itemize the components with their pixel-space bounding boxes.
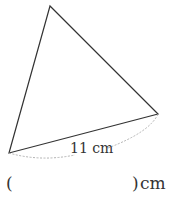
answer-blank[interactable]: ( ) cm — [6, 172, 171, 194]
unit-label: cm — [140, 172, 166, 194]
close-paren: ) — [132, 172, 139, 194]
open-paren: ( — [6, 172, 13, 194]
triangle — [9, 6, 158, 153]
base-label: 11 cm — [70, 140, 113, 156]
triangle-diagram: 11 cm — [0, 0, 174, 197]
